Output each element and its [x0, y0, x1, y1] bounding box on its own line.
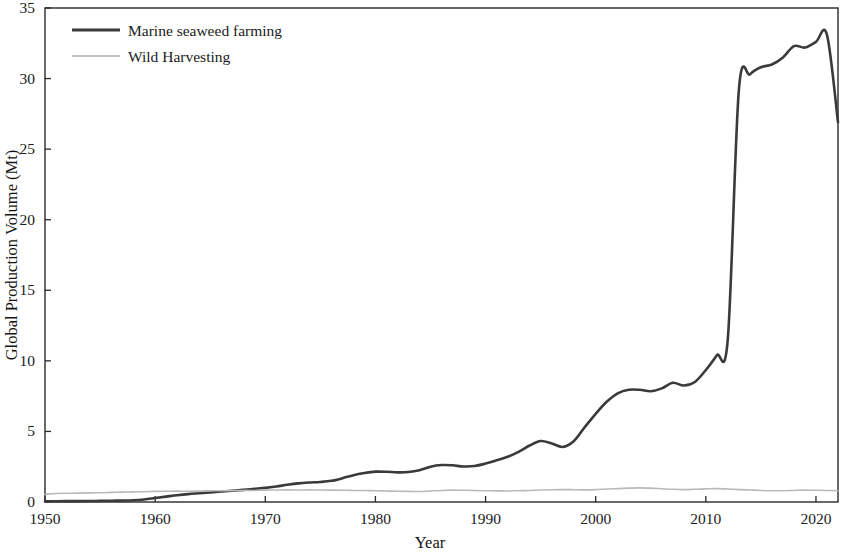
- legend-label-marine-seaweed-farming: Marine seaweed farming: [128, 22, 282, 39]
- plot-frame: [45, 8, 838, 502]
- x-tick-label-1970: 1970: [250, 510, 281, 527]
- chart-figure: 19501960197019801990200020102020 0510152…: [0, 0, 851, 555]
- y-tick-label-20: 20: [20, 211, 36, 228]
- y-tick-label-0: 0: [27, 493, 35, 510]
- x-tick-label-1960: 1960: [140, 510, 171, 527]
- y-tick-label-10: 10: [20, 352, 36, 369]
- x-tick-label-2010: 2010: [690, 510, 721, 527]
- y-tick-label-35: 35: [20, 0, 36, 16]
- y-axis-tick-labels: 05101520253035: [20, 0, 36, 510]
- series-line-wild-harvesting: [45, 488, 838, 494]
- x-axis-title: Year: [415, 533, 446, 552]
- x-tick-label-1950: 1950: [30, 510, 61, 527]
- x-tick-label-2000: 2000: [580, 510, 611, 527]
- y-tick-label-30: 30: [20, 70, 36, 87]
- series-line-marine-seaweed-farming: [45, 30, 838, 501]
- y-tick-label-25: 25: [20, 140, 36, 157]
- x-axis-tick-labels: 19501960197019801990200020102020: [30, 510, 832, 527]
- y-axis-title: Global Production Volume (Mt): [2, 150, 21, 361]
- x-tick-label-1980: 1980: [360, 510, 391, 527]
- axis-ticks: [45, 8, 816, 502]
- x-tick-label-1990: 1990: [470, 510, 501, 527]
- y-tick-label-5: 5: [27, 422, 35, 439]
- line-chart: 19501960197019801990200020102020 0510152…: [0, 0, 851, 555]
- data-series: [45, 30, 838, 501]
- x-tick-label-2020: 2020: [800, 510, 831, 527]
- legend-label-wild-harvesting: Wild Harvesting: [128, 48, 231, 65]
- y-tick-label-15: 15: [20, 281, 36, 298]
- chart-legend: Marine seaweed farmingWild Harvesting: [72, 22, 282, 65]
